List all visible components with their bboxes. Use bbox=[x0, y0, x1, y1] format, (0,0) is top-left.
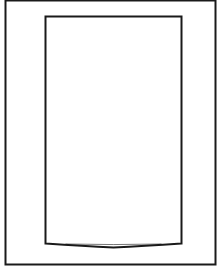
inner-panel bbox=[46, 17, 182, 248]
panel-outline-drawing bbox=[0, 0, 221, 267]
inner-panel-bottom-curve bbox=[66, 244, 162, 245]
outer-frame bbox=[6, 1, 216, 265]
diagram-canvas bbox=[0, 0, 221, 267]
